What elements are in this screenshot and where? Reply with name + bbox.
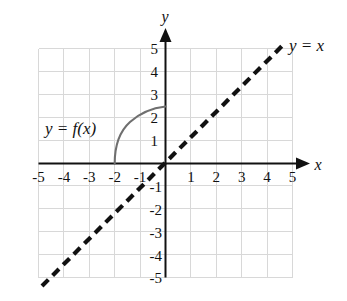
line-label: y = x — [287, 36, 325, 55]
x-tick-label: -2 — [108, 169, 121, 185]
y-tick-label: 2 — [151, 110, 159, 126]
curve-label: y = f(x) — [43, 119, 96, 138]
y-tick-label: -2 — [150, 202, 163, 218]
y-tick-label: -3 — [150, 225, 163, 241]
y-axis-label: y — [159, 8, 169, 26]
y-tick-label: 1 — [151, 133, 159, 149]
x-tick-label: 5 — [289, 169, 297, 185]
x-tick-label: 3 — [238, 169, 246, 185]
y-tick-label: 3 — [151, 87, 159, 103]
y-tick-label: -4 — [150, 248, 163, 264]
chart-figure: -5 -4 -3 -2 -1 1 2 3 4 5 5 4 3 2 1 -1 -2… — [0, 0, 347, 301]
x-axis-label: x — [313, 156, 321, 173]
x-tick-label: -1 — [134, 169, 147, 185]
x-tick-label: 4 — [263, 169, 271, 185]
x-tick-label: -4 — [58, 169, 71, 185]
x-tick-label: 1 — [187, 169, 195, 185]
coordinate-plane-graph: -5 -4 -3 -2 -1 1 2 3 4 5 5 4 3 2 1 -1 -2… — [0, 0, 347, 301]
y-tick-label: 4 — [151, 64, 159, 80]
x-tick-label: 2 — [213, 169, 221, 185]
y-tick-label: 5 — [151, 41, 159, 57]
y-tick-label: -1 — [150, 179, 163, 195]
x-tick-label: -3 — [83, 169, 96, 185]
y-tick-label: -5 — [150, 270, 163, 286]
x-tick-label: -5 — [32, 169, 45, 185]
